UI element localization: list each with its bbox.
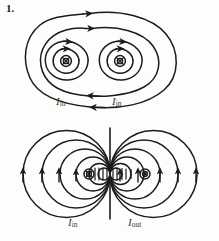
physics-figure: 1. bbox=[0, 0, 219, 241]
problem-number: 1. bbox=[6, 2, 14, 14]
wire-symbol-into-page-right bbox=[115, 56, 126, 67]
label-current-bottom-left: Iin bbox=[68, 216, 78, 229]
label-current-top-right: Iin bbox=[112, 95, 122, 108]
outer-field-loop bbox=[25, 12, 176, 107]
label-current-bottom-right: Iout bbox=[128, 216, 141, 229]
label-current-top-left: Iin bbox=[56, 95, 66, 108]
wire-top-left-group bbox=[45, 41, 88, 80]
wire-symbol-into-page-left bbox=[61, 56, 72, 67]
figure-canvas bbox=[0, 0, 219, 241]
label-subscript: in bbox=[72, 220, 78, 229]
top-diagram bbox=[25, 12, 176, 107]
right-field-circles bbox=[110, 131, 197, 218]
label-subscript: in bbox=[60, 99, 66, 108]
label-subscript: in bbox=[116, 99, 122, 108]
label-subscript: out bbox=[132, 220, 142, 229]
left-field-circles bbox=[23, 131, 110, 218]
wire-top-right-group bbox=[99, 41, 142, 80]
wire-symbol-out-of-page-bottom-right bbox=[140, 169, 150, 179]
bottom-diagram bbox=[23, 128, 197, 219]
